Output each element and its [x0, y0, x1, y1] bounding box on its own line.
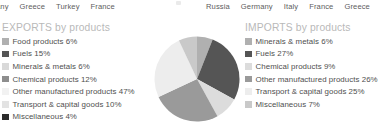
- legend-swatch-icon: [2, 63, 9, 70]
- exports-legend-title: EXPORTS by products: [2, 22, 177, 33]
- imports-pie-chart: [154, 36, 240, 122]
- imports-legend: IMPORTS by products Minerals & metals 6%…: [245, 22, 387, 111]
- legend-item: Miscellaneous 4%: [2, 111, 177, 124]
- legend-swatch-icon: [2, 51, 9, 58]
- legend-swatch-icon: [2, 114, 9, 121]
- legend-item-label: Chemical products 9%: [256, 62, 336, 71]
- country-labels-right: RussiaGermanyItalyFranceGreece: [206, 2, 370, 11]
- legend-item-label: Food products 6%: [13, 37, 78, 46]
- page-artifact-mark: [176, 1, 181, 5]
- legend-item-label: Fuels 27%: [256, 49, 294, 58]
- legend-item-label: Transport & capital goods 10%: [13, 100, 122, 109]
- legend-item: Other manufactured products 26%: [245, 73, 387, 86]
- legend-item: Transport & capital goods 25%: [245, 85, 387, 98]
- country-label: Russia: [206, 2, 230, 11]
- country-label: Greece: [344, 2, 370, 11]
- legend-item: Minerals & metals 6%: [245, 35, 387, 48]
- legend-item-label: Minerals & metals 6%: [256, 37, 333, 46]
- legend-item: Chemical products 12%: [2, 73, 177, 86]
- legend-item: Chemical products 9%: [245, 60, 387, 73]
- country-label: Greece: [20, 2, 46, 11]
- legend-item: Miscellaneous 7%: [245, 98, 387, 111]
- legend-swatch-icon: [245, 38, 252, 45]
- legend-item-label: Fuels 15%: [13, 49, 51, 58]
- legend-swatch-icon: [2, 38, 9, 45]
- legend-item: Fuels 27%: [245, 48, 387, 61]
- country-label: any: [0, 2, 9, 11]
- legend-item-label: Miscellaneous 7%: [256, 100, 320, 109]
- legend-item-label: Chemical products 12%: [13, 75, 97, 84]
- pie-chart-svg: [154, 36, 240, 122]
- legend-item: Transport & capital goods 10%: [2, 98, 177, 111]
- country-label: France: [309, 2, 333, 11]
- legend-item: Minerals & metals 6%: [2, 60, 177, 73]
- legend-item-label: Other manufactured products 26%: [256, 75, 378, 84]
- country-labels-left: anyGreeceTurkeyFrance: [0, 2, 115, 11]
- country-label: Italy: [284, 2, 298, 11]
- country-label: France: [91, 2, 115, 11]
- legend-swatch-icon: [2, 101, 9, 108]
- legend-swatch-icon: [2, 88, 9, 95]
- legend-swatch-icon: [245, 63, 252, 70]
- legend-item-label: Miscellaneous 4%: [13, 112, 77, 121]
- country-label: Turkey: [56, 2, 80, 11]
- legend-swatch-icon: [245, 51, 252, 58]
- legend-swatch-icon: [245, 101, 252, 108]
- legend-item: Fuels 15%: [2, 48, 177, 61]
- legend-item: Other manufactured products 47%: [2, 85, 177, 98]
- imports-legend-title: IMPORTS by products: [245, 22, 387, 33]
- legend-swatch-icon: [245, 76, 252, 83]
- legend-item-label: Transport & capital goods 25%: [256, 87, 365, 96]
- legend-item-label: Minerals & metals 6%: [13, 62, 90, 71]
- legend-item: Food products 6%: [2, 35, 177, 48]
- country-label: Germany: [241, 2, 273, 11]
- legend-swatch-icon: [2, 76, 9, 83]
- legend-item-label: Other manufactured products 47%: [13, 87, 135, 96]
- exports-legend: EXPORTS by products Food products 6% Fue…: [2, 22, 177, 123]
- legend-swatch-icon: [245, 88, 252, 95]
